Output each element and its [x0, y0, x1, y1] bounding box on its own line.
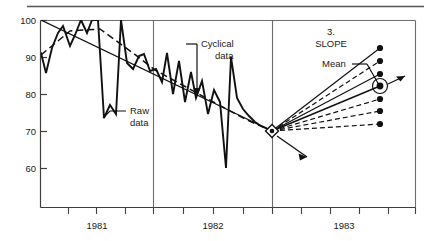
slope-chart: 100 90 80 70 60 1981 1982 1983 — [0, 0, 431, 241]
slope-endpoint-5 — [377, 96, 383, 102]
mean-projection-arrowhead — [396, 76, 405, 82]
x-label-1983: 1983 — [333, 220, 354, 231]
slope-endpoint-7 — [377, 121, 383, 127]
y-label-100: 100 — [20, 15, 36, 26]
x-axis-labels: 1981 1982 1983 — [86, 220, 354, 231]
slope-ray-2 — [272, 61, 380, 131]
cyclical-label-line1: Cyclical — [201, 38, 234, 49]
mean-projection-arrow — [388, 76, 405, 84]
origin-direction-arrow — [277, 136, 307, 161]
slope-panel-word: SLOPE — [315, 38, 347, 49]
slope-endpoint-6 — [377, 108, 383, 114]
slope-origin-dot — [270, 129, 275, 134]
y-label-90: 90 — [25, 52, 36, 63]
slope-origin-marker — [266, 125, 279, 138]
mean-label: Mean — [322, 58, 346, 69]
slope-panel-number: 3. — [327, 26, 335, 37]
slope-ray-4-mean — [272, 86, 380, 131]
y-axis-ticks — [41, 21, 48, 169]
raw-data-label-line1: Raw — [130, 105, 149, 116]
series-raw-data — [41, 20, 272, 168]
figure-container: 100 90 80 70 60 1981 1982 1983 — [0, 0, 431, 241]
x-label-1982: 1982 — [202, 220, 223, 231]
y-label-70: 70 — [25, 126, 36, 137]
y-axis-labels: 100 90 80 70 60 — [20, 15, 36, 174]
slope-ray-5 — [272, 99, 380, 131]
series-smoothed-trend — [41, 29, 272, 131]
annotation-raw-data: Raw data — [103, 105, 149, 128]
slope-fan-endpoints — [373, 45, 388, 127]
annotation-mean: Mean — [322, 58, 379, 85]
slope-endpoint-2 — [377, 58, 383, 64]
x-label-1981: 1981 — [86, 220, 107, 231]
y-label-80: 80 — [25, 89, 36, 100]
slope-ray-3 — [272, 74, 380, 131]
panel-title-slope: 3. SLOPE — [315, 26, 347, 49]
series-trend-line — [41, 20, 272, 131]
y-label-60: 60 — [25, 163, 36, 174]
raw-data-label-line2: data — [130, 117, 149, 128]
cyclical-label-line2: data — [215, 50, 234, 61]
x-axis-ticks — [69, 208, 416, 215]
slope-endpoint-1 — [377, 45, 383, 51]
slope-endpoint-3 — [377, 71, 383, 77]
